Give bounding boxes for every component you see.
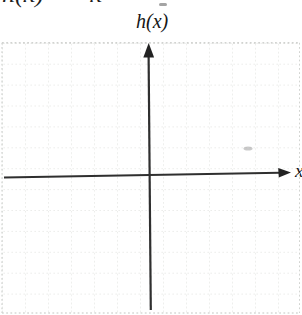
worksheet-graph-page: h(x) = x h(x) x — [0, 0, 302, 315]
graph-canvas — [0, 0, 302, 315]
scan-smudge — [244, 147, 253, 151]
